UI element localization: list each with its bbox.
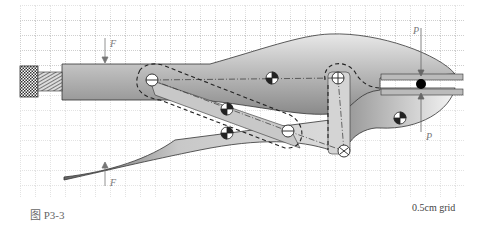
adjust-thread [38, 72, 62, 91]
pliers-diagram: F F P P [0, 0, 479, 228]
force-label-top: F [109, 38, 117, 49]
clamp-label-bottom: P [425, 131, 432, 142]
adjust-knob [20, 66, 38, 97]
jaw-plate-top [381, 74, 463, 80]
jaw-plate-bottom [381, 89, 463, 95]
clamp-label-top: P [412, 25, 419, 36]
figure-caption: 图 P3-3 [30, 206, 65, 222]
force-label-bottom: F [109, 177, 117, 188]
clamped-object [416, 79, 426, 89]
grid-scale-label: 0.5cm grid [412, 202, 455, 213]
